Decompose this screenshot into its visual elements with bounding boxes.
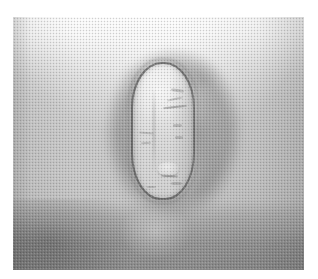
figure-caption [13,270,304,279]
screenshot-root [0,0,318,279]
ovoid-lesion [131,62,195,200]
page-margin-right [304,0,318,279]
lesion-rim [131,62,195,200]
page-margin-left [0,0,13,279]
page-margin-top [0,0,318,17]
clinical-photograph [13,17,304,270]
